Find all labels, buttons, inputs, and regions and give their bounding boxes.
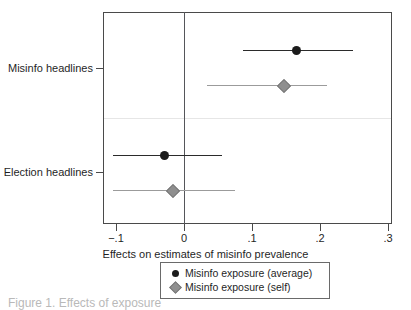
x-axis-tick-1 — [184, 224, 185, 231]
x-axis-ticklabel-3: .2 — [315, 232, 324, 244]
legend-label-average: Misinfo exposure (average) — [185, 267, 312, 279]
legend: Misinfo exposure (average) Misinfo expos… — [160, 262, 330, 299]
x-axis-ticklabel-1: 0 — [181, 232, 187, 244]
x-axis-tick-3 — [320, 224, 321, 231]
x-axis-ticklabel-4: .3 — [383, 232, 392, 244]
interval-election-headlines-self — [113, 183, 235, 197]
x-axis-tick-4 — [388, 224, 389, 231]
figure-caption: Figure 1. Effects of exposure — [8, 296, 161, 310]
point-estimate-marker — [292, 46, 301, 55]
y-axis-label-election-headlines: Election headlines — [4, 166, 93, 178]
x-axis-ticklabel-2: .1 — [247, 232, 256, 244]
x-axis-ticklabel-0: −.1 — [108, 232, 124, 244]
x-axis-tick-2 — [252, 224, 253, 231]
point-estimate-marker — [277, 79, 291, 93]
y-axis-tick-misinfo-headlines — [96, 68, 103, 69]
interval-election-headlines-average — [113, 148, 222, 162]
legend-diamond-marker-icon — [168, 283, 182, 292]
legend-circle-marker-icon — [168, 270, 182, 277]
x-axis-tick-0 — [116, 224, 117, 231]
confidence-interval-line — [207, 85, 327, 86]
legend-label-self: Misinfo exposure (self) — [185, 281, 291, 293]
x-axis-title: Effects on estimates of misinfo prevalen… — [0, 248, 411, 260]
legend-item-self: Misinfo exposure (self) — [168, 280, 322, 294]
interval-misinfo-headlines-average — [243, 43, 353, 57]
legend-item-average: Misinfo exposure (average) — [168, 266, 322, 280]
y-axis-tick-election-headlines — [96, 172, 103, 173]
interval-misinfo-headlines-self — [207, 78, 327, 92]
y-axis-label-misinfo-headlines: Misinfo headlines — [8, 62, 93, 74]
point-estimate-marker — [160, 151, 169, 160]
point-estimate-marker — [166, 184, 180, 198]
group-separator-gridline — [104, 118, 391, 119]
